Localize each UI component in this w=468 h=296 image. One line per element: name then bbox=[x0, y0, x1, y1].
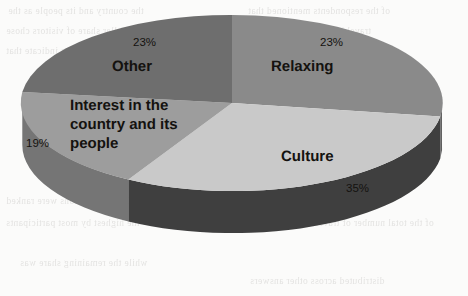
slice-label-relaxing: Relaxing bbox=[271, 57, 334, 76]
slice-percent-other: 23% bbox=[133, 36, 156, 48]
pie-chart-figure: the country and its people as the of the… bbox=[0, 0, 468, 296]
slice-label-culture: Culture bbox=[281, 147, 334, 166]
slice-label-interest: Interest in the country and its people bbox=[70, 96, 198, 153]
slice-percent-interest: 19% bbox=[26, 137, 49, 149]
slice-label-other: Other bbox=[112, 57, 152, 76]
slice-top-relaxing bbox=[232, 15, 443, 116]
slice-percent-relaxing: 23% bbox=[320, 36, 343, 48]
slice-percent-culture: 35% bbox=[346, 182, 369, 194]
